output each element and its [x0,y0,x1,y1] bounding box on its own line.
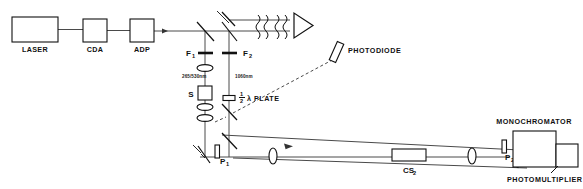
beam-diagonal-arrow [284,143,293,149]
filter-2-sublabel: 2 [249,53,252,59]
filter-2-label: F [243,49,248,58]
polarizer-1-element [215,145,220,158]
beamsplitters [197,11,237,41]
amplifier-rod-2-right [283,15,287,39]
half-wave-plate-element [223,96,235,101]
monochromator-label: MONOCHROMATOR [496,117,572,126]
filter-1-sublabel: 1 [192,53,195,59]
wavelength-fundamental-label: 1060nm [235,74,253,79]
cda-crystal-box [83,19,107,42]
half-wave-numerator: 1 [240,91,243,97]
polarizer-1-sublabel: 1 [226,161,229,167]
polarizer-2-element [502,140,507,153]
half-wave-plate-arm: 1 2 λ PLATE [222,91,280,120]
amplifier-rod-2-left [275,15,279,39]
source-chain: LASER CDA ADP [12,17,154,54]
lens-after-cs2 [468,148,476,164]
cda-label: CDA [87,45,104,54]
filter-1-label: F [186,49,191,58]
optical-diagram: LASER CDA ADP [0,0,583,189]
laser-box [12,17,58,42]
photomultiplier-label: PHOTOMULTIPLIER [507,175,583,184]
amplifier-rod-1-left [256,15,260,39]
beam-diagonal-upper [222,135,520,150]
sample-cell [198,86,212,100]
monochromator-box [513,131,556,167]
retroreflector-prism [294,13,313,38]
beam-paths [58,20,527,168]
amplifier-stage [256,13,313,39]
filters: F 1 F 2 [186,49,252,59]
lens-before-cs2 [269,148,277,164]
photomultiplier-box [556,144,578,167]
beam-direction-arrow [162,29,168,34]
beam-photodiode-stub [215,117,226,122]
optical-schematic-svg: LASER CDA ADP [0,0,583,189]
beam-to-photodiode [233,58,336,113]
wavelength-annotations: 265/530nm 1060nm [182,74,253,79]
wavelength-pump-label: 265/530nm [182,74,206,79]
half-wave-plate-label: λ PLATE [247,94,280,103]
detection-stage: P 2 MONOCHROMATOR PHOTOMULTIPLIER [496,117,583,184]
adp-label: ADP [134,45,150,54]
adp-crystal-box [130,19,154,42]
lens-below-sample [197,104,213,111]
lens-below-sample-2 [197,115,213,122]
cs2-sublabel: 2 [413,170,416,176]
amplifier-rod-1-right [264,15,268,39]
laser-label: LASER [22,45,49,54]
photodiode-group: PHOTODIODE [329,41,401,62]
mirror-lower-left [198,146,210,163]
photodiode-label: PHOTODIODE [348,46,401,55]
half-wave-denominator: 2 [240,98,243,104]
sample-label: S [188,90,194,99]
cs2-cell [392,149,426,161]
lower-rail-optics: P 1 CS 2 [193,133,524,176]
lens-above-sample [197,65,213,72]
photodiode-element [329,41,344,62]
